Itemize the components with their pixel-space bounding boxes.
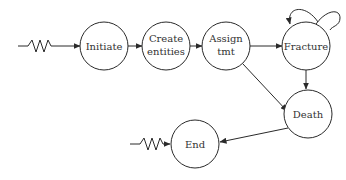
edge-assign-death — [243, 64, 287, 111]
svg-text:Initiate: Initiate — [86, 41, 123, 52]
svg-text:tmt: tmt — [217, 46, 235, 57]
svg-text:Assign: Assign — [208, 33, 243, 44]
node-fracture: Fracture — [282, 22, 330, 70]
node-death: Death — [284, 90, 332, 138]
node-initiate: Initiate — [80, 22, 128, 70]
node-end: End — [171, 120, 219, 168]
svg-text:End: End — [185, 139, 206, 150]
svg-text:entities: entities — [147, 46, 185, 57]
svg-text:Fracture: Fracture — [284, 41, 329, 52]
node-assign-tmt: Assign tmt — [202, 22, 250, 70]
flow-diagram: Initiate Create entities Assign tmt Frac… — [0, 0, 346, 180]
zigzag-entry-initiate — [18, 40, 80, 52]
edge-death-end — [220, 128, 288, 142]
node-create-entities: Create entities — [142, 22, 190, 70]
svg-text:Create: Create — [149, 33, 183, 44]
zigzag-entry-end — [130, 138, 170, 150]
svg-text:Death: Death — [293, 109, 324, 120]
